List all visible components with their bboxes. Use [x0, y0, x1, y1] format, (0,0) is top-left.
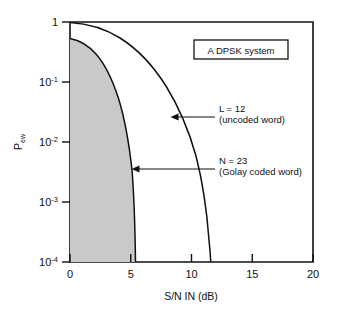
- x-tick-label-4: 20: [307, 268, 319, 280]
- uncoded-callout: L = 12 (uncoded word): [171, 103, 286, 125]
- x-tick-labels: 0 5 10 15 20: [67, 268, 319, 280]
- y-tick-label-0: 1: [52, 16, 58, 28]
- y-tick-label-3: 10-3: [39, 195, 58, 208]
- title-box-label: A DPSK system: [207, 45, 274, 56]
- y-axis-title: Pew: [12, 133, 26, 150]
- y-tick-labels: 1 10-1 10-2 10-3 10-4: [39, 16, 58, 268]
- golay-callout: N = 23 (Golay coded word): [132, 155, 302, 177]
- chart-canvas: 0 5 10 15 20 1 10-1 10-2 10-3 10-4: [0, 0, 339, 315]
- x-tick-label-1: 5: [128, 268, 134, 280]
- y-tick-label-1: 10-1: [39, 75, 58, 88]
- x-axis-title: S/N IN (dB): [164, 290, 218, 302]
- golay-label-line2: (Golay coded word): [219, 166, 302, 177]
- chart-figure: 0 5 10 15 20 1 10-1 10-2 10-3 10-4: [0, 0, 339, 315]
- y-axis-ticks: [62, 22, 70, 262]
- y-tick-label-4: 10-4: [39, 255, 58, 268]
- svg-text:Pew: Pew: [12, 133, 26, 150]
- golay-shaded-region: [70, 39, 136, 263]
- y-tick-label-2: 10-2: [39, 135, 58, 148]
- uncoded-label-line2: (uncoded word): [219, 114, 285, 125]
- uncoded-arrowhead-icon: [171, 114, 179, 121]
- x-tick-label-0: 0: [67, 268, 73, 280]
- title-callout-box: A DPSK system: [194, 40, 288, 59]
- golay-label-line1: N = 23: [219, 155, 247, 166]
- x-tick-label-3: 15: [246, 268, 258, 280]
- uncoded-label-line1: L = 12: [219, 103, 245, 114]
- x-tick-label-2: 10: [185, 268, 197, 280]
